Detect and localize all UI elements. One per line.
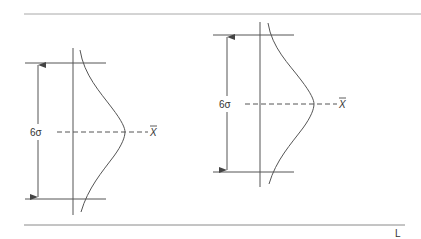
left-mean-label: X: [149, 127, 157, 138]
process-spread-diagram: L 6σ X 6σ X: [0, 0, 421, 239]
right-mean-label: X: [338, 99, 346, 110]
right-six-sigma-label: 6σ: [219, 99, 232, 110]
left-six-sigma-label: 6σ: [30, 127, 43, 138]
left-normal-curve: [80, 50, 125, 212]
right-normal-curve: [268, 23, 314, 184]
right-distribution-figure: 6σ X: [213, 22, 346, 187]
axis-label-l: L: [395, 228, 401, 239]
left-distribution-figure: 6σ X: [25, 48, 157, 215]
